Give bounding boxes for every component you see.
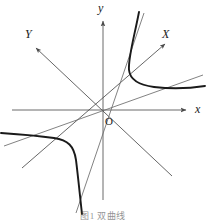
origin-label: O [105,116,113,127]
hyperbola-branch-lower [1,133,82,214]
figure-caption: 图1 双曲线 [0,209,206,220]
rotated-y-axis-line [36,48,172,176]
x-axis-label: x [195,103,200,115]
y-axis-label: y [98,2,103,14]
rotated-y-axis-label: Y [25,28,32,40]
steep-asymptote-line [76,13,144,213]
rotated-x-axis-label: X [162,28,169,40]
hyperbola-figure: y x X Y O 图1 双曲线 [0,0,206,220]
